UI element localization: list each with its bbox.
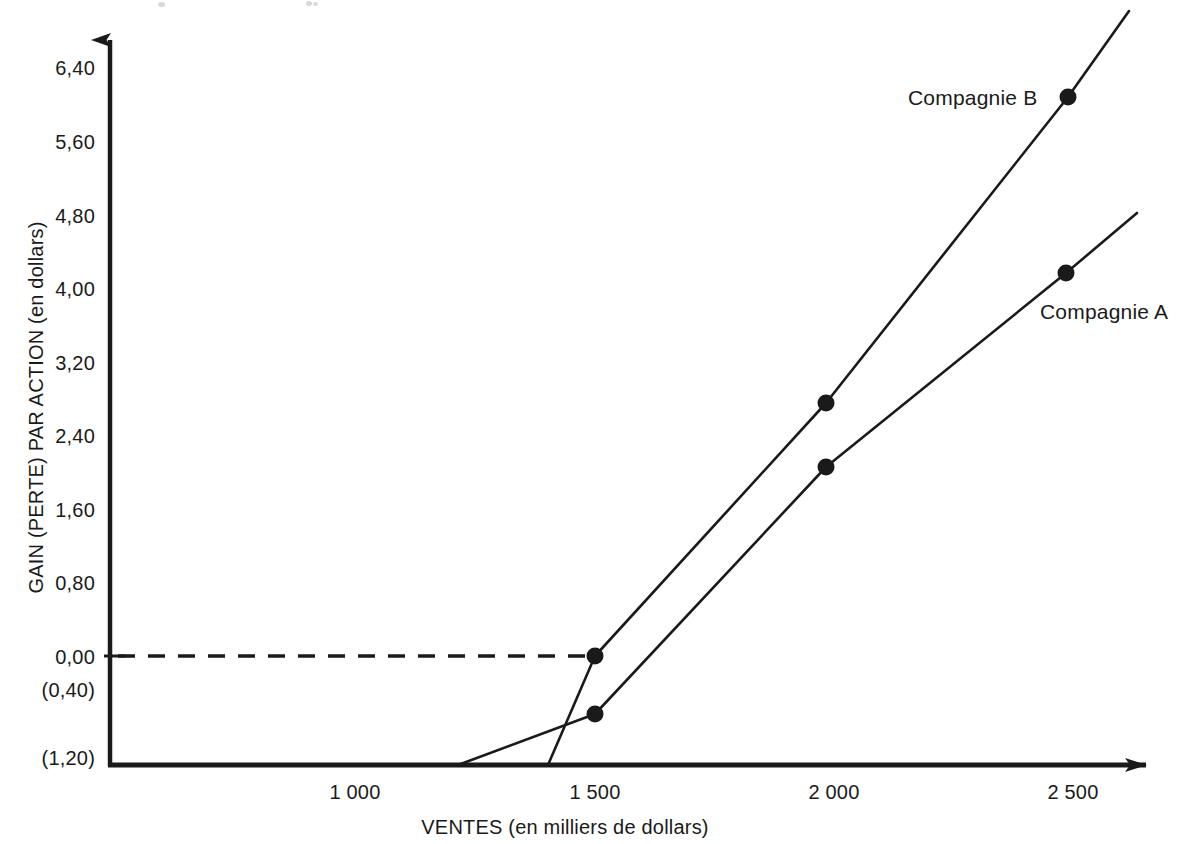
data-point-marker [818,395,835,412]
x-axis-title: VENTES (en milliers de dollars) [0,816,1130,839]
y-axis-title: GAIN (PERTE) PAR ACTION (en dollars) [25,158,48,658]
y-tick-label: 3,20 [0,352,95,375]
data-point-marker [1058,265,1075,282]
y-tick-label: 0,80 [0,572,95,595]
y-tick-label: 4,00 [0,278,95,301]
data-point-marker [587,706,604,723]
x-tick-label: 1 000 [295,781,415,804]
series-line-compagnie-b [548,11,1129,765]
x-tick-label: 2 500 [1013,781,1133,804]
y-tick-label: (0,40) [0,679,95,702]
data-point-marker [587,648,604,665]
plot-canvas [0,0,1200,844]
data-point-marker [818,459,835,476]
y-tick-label: (1,20) [0,747,95,770]
series-label-compagnie-b: Compagnie B [908,86,1037,110]
y-tick-label: 6,40 [0,57,95,80]
y-tick-label: 0,00 [0,646,95,669]
y-tick-label: 4,80 [0,205,95,228]
x-tick-label: 2 000 [774,781,894,804]
x-tick-label: 1 500 [535,781,655,804]
series-label-compagnie-a: Compagnie A [1040,300,1168,324]
series-line-compagnie-a [458,213,1137,765]
y-tick-label: 2,40 [0,425,95,448]
y-tick-label: 1,60 [0,499,95,522]
data-point-marker [1060,89,1077,106]
y-tick-label: 5,60 [0,131,95,154]
chart-figure: 6,40 5,60 4,80 4,00 3,20 2,40 1,60 0,80 … [0,0,1200,844]
